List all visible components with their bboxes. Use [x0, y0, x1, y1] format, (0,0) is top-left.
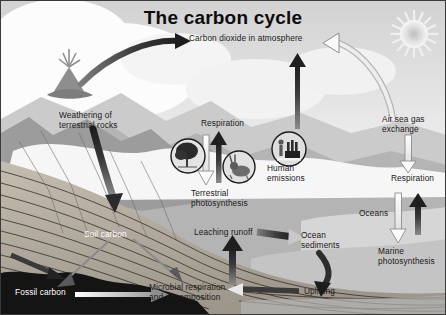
- tree-icon: [171, 139, 205, 173]
- label-co2-atmosphere: Carbon dioxide in atmosphere: [189, 34, 303, 44]
- label-leaching-runoff: Leaching runoff: [194, 228, 253, 238]
- label-ocean-sediments: Ocean sediments: [301, 231, 340, 250]
- label-terrestrial-photosynthesis: Terrestrial photosynthesis: [191, 189, 248, 208]
- label-respiration-land: Respiration: [201, 119, 244, 129]
- label-oceans: Oceans: [359, 209, 388, 219]
- rabbit-icon: [223, 151, 255, 183]
- label-respiration-ocean: Respiration: [391, 174, 434, 184]
- label-soil-carbon: Soil carbon: [84, 230, 127, 240]
- carbon-cycle-diagram: The carbon cycle Carbon dioxide in atmos…: [0, 0, 446, 315]
- page-title: The carbon cycle: [1, 7, 445, 29]
- label-microbial-respiration: Microbial respiration and decomposition: [149, 283, 225, 302]
- label-uplifting: Uplifting: [304, 287, 335, 297]
- label-air-sea-gas-exchange: Air sea gas exchange: [382, 115, 425, 134]
- label-fossil-carbon: Fossil carbon: [15, 288, 66, 298]
- diagram-artwork: [1, 1, 446, 315]
- label-human-emissions: Human emissions: [267, 164, 305, 183]
- factory-icon: [272, 132, 306, 166]
- label-marine-photosynthesis: Marine photosynthesis: [378, 247, 435, 266]
- label-weathering: Weathering of terrestrial rocks: [59, 111, 117, 130]
